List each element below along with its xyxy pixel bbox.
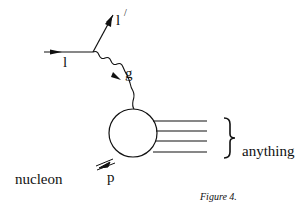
- incoming-lepton-line: [44, 50, 93, 55]
- label-gauge-boson: g: [125, 66, 133, 81]
- outgoing-lepton-line: [93, 15, 113, 52]
- label-outgoing-lepton: l: [116, 13, 120, 28]
- brace: [224, 118, 235, 158]
- label-proton: p: [107, 170, 115, 185]
- hadron-jet-lines: [153, 121, 207, 152]
- hadronic-blob: [109, 109, 157, 157]
- figure-caption: Figure 4.: [200, 191, 237, 202]
- label-nucleon: nucleon: [15, 172, 62, 187]
- label-prime: /: [124, 8, 127, 18]
- label-anything: anything: [242, 144, 295, 159]
- label-incoming-lepton: l: [63, 55, 67, 70]
